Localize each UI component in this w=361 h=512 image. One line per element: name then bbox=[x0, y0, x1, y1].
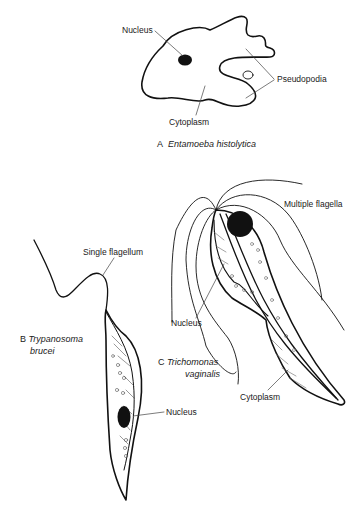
trypanosoma-body bbox=[105, 310, 141, 500]
trypanosoma-flagellum-label: Single flagellum bbox=[83, 248, 143, 257]
trichomonas-body bbox=[211, 210, 345, 405]
caption-c-letter: C bbox=[158, 357, 165, 367]
amoeba-pseudopodia-label: Pseudopodia bbox=[277, 75, 327, 84]
trichomonas-nucleus-icon bbox=[227, 211, 253, 237]
trichomonas-flagella-label: Multiple flagella bbox=[284, 200, 343, 209]
amoeba-cytoplasm-label: Cytoplasm bbox=[169, 118, 209, 127]
caption-b-organism-line1: Trypanosoma bbox=[29, 334, 83, 344]
trypanosoma-nucleus-icon bbox=[118, 406, 131, 428]
caption-c-organism-line1: Trichomonas bbox=[167, 357, 218, 367]
caption-a-organism: Entamoeba histolytica bbox=[168, 139, 256, 149]
trichomonas-flagella bbox=[172, 180, 344, 384]
trypanosoma-nucleus-label: Nucleus bbox=[166, 408, 197, 417]
caption-b-organism-line2: brucei bbox=[30, 347, 55, 356]
amoeba-nucleus-label: Nucleus bbox=[122, 26, 153, 35]
trichomonas-nucleus-label: Nucleus bbox=[171, 319, 202, 328]
trichomonas-cytoplasm-label: Cytoplasm bbox=[240, 393, 280, 402]
caption-c: C Trichomonas bbox=[158, 358, 218, 367]
caption-a-letter: A bbox=[157, 139, 163, 149]
caption-b-letter: B bbox=[20, 334, 26, 344]
caption-a: A Entamoeba histolytica bbox=[157, 140, 256, 149]
amoeba-vacuole-icon bbox=[243, 71, 253, 79]
amoeba-nucleus-icon bbox=[178, 55, 192, 66]
caption-c-organism-line2: vaginalis bbox=[185, 370, 220, 379]
caption-b: B Trypanosoma bbox=[20, 335, 83, 344]
